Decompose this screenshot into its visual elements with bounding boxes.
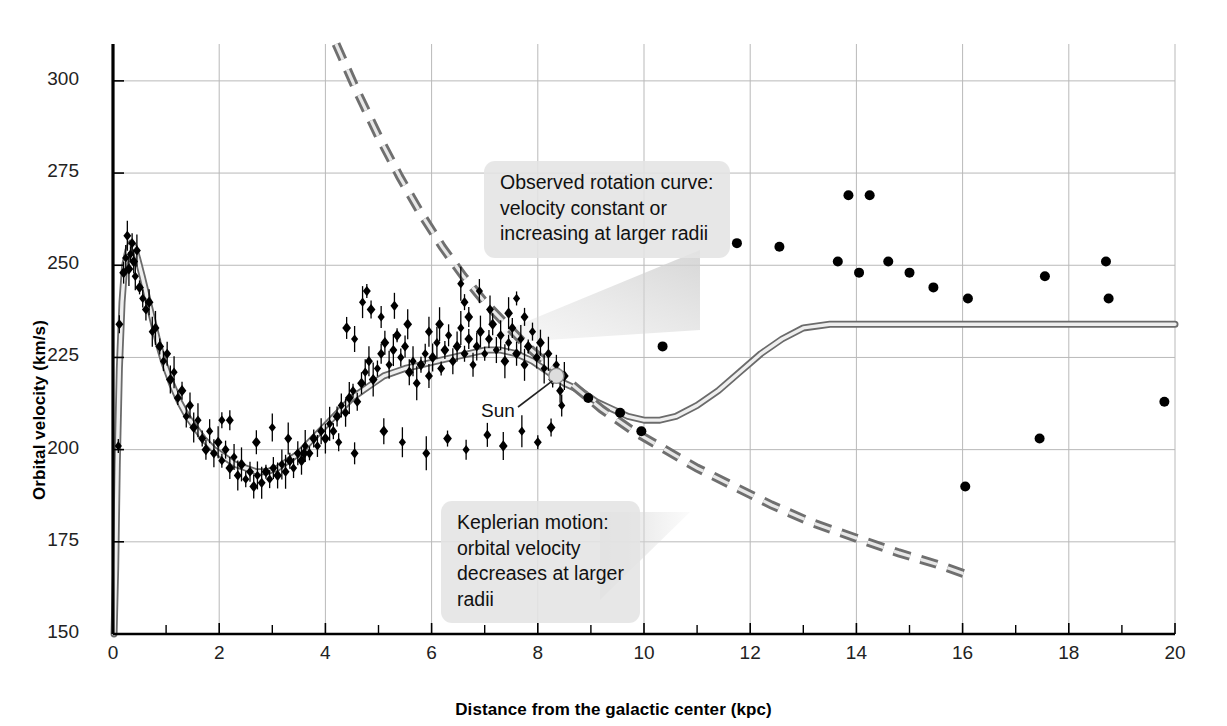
rotation-curve-figure: Orbital velocity (km/s) Distance from th… [0, 0, 1227, 726]
keplerian-callout-line: decreases at larger [457, 561, 624, 587]
observed-callout-line: increasing at larger radii [500, 221, 714, 247]
observed-curve-callout: Observed rotation curve:velocity constan… [484, 161, 730, 258]
sun-label: Sun [481, 400, 515, 422]
observed-callout-line: velocity constant or [500, 196, 714, 222]
keplerian-callout-line: Keplerian motion: [457, 510, 624, 536]
keplerian-callout-line: radii [457, 587, 624, 613]
keplerian-callout: Keplerian motion:orbital velocitydecreas… [441, 501, 640, 623]
observed-callout-line: Observed rotation curve: [500, 170, 714, 196]
keplerian-callout-line: orbital velocity [457, 536, 624, 562]
